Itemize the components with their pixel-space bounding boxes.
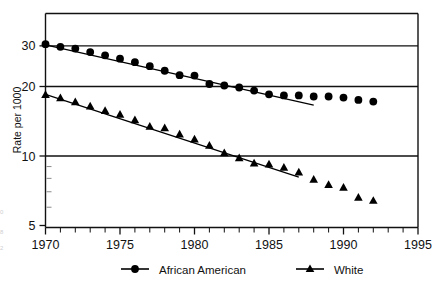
- data-point-1986-18.3: [280, 92, 288, 100]
- data-point-1991-6.6: [354, 193, 363, 201]
- data-point-1972-29.2: [71, 45, 79, 53]
- data-point-1988-18.1: [310, 93, 318, 101]
- x-tick-label-1970: 1970: [32, 238, 60, 252]
- trend-line-series-1: [46, 94, 299, 177]
- data-point-1988-7.9: [309, 175, 318, 183]
- legend-marker-circle-icon: [131, 265, 139, 273]
- x-tick-label-1980: 1980: [181, 238, 209, 252]
- data-point-1970-18.4: [41, 90, 50, 98]
- data-point-1973-16.4: [86, 102, 95, 110]
- data-point-1989-7.5: [324, 180, 333, 188]
- data-point-1992-6.4: [369, 196, 378, 204]
- data-point-1984-19.2: [250, 87, 258, 95]
- x-tick-label-1975: 1975: [106, 238, 134, 252]
- x-tick-label-1995: 1995: [404, 238, 432, 252]
- margin-artifact-3: 2: [0, 244, 14, 252]
- data-point-1987-8.5: [295, 168, 304, 176]
- data-point-1985-9.2: [265, 160, 274, 168]
- data-point-1984-9.3: [250, 159, 259, 167]
- data-point-1970-30.5: [42, 40, 50, 48]
- data-series-group: [41, 40, 377, 204]
- x-tick-label-1990: 1990: [330, 238, 358, 252]
- data-point-1979-12.4: [175, 130, 184, 138]
- data-point-1975-15.1: [116, 110, 125, 118]
- data-point-1975-26.4: [116, 55, 124, 63]
- x-axis-ticks: [46, 228, 419, 235]
- x-tick-label-1985: 1985: [255, 238, 283, 252]
- data-point-1973-28.2: [86, 48, 94, 56]
- legend-label-0: African American: [159, 264, 246, 276]
- data-point-1982-20.2: [220, 82, 228, 90]
- data-point-1992-17.2: [369, 98, 377, 106]
- data-point-1981-20.5: [206, 80, 214, 88]
- data-point-1978-13.2: [160, 124, 169, 132]
- data-point-1987-18.3: [295, 92, 303, 100]
- legend-label-1: White: [334, 264, 363, 276]
- data-point-1978-23.4: [161, 67, 169, 75]
- data-point-1986-8.9: [280, 163, 289, 171]
- data-point-1989-18.1: [325, 93, 333, 101]
- data-point-1976-14.3: [131, 116, 140, 124]
- y-axis-title: Rate per 1000: [11, 87, 23, 154]
- data-point-1983-19.8: [235, 84, 243, 92]
- data-point-1974-27.3: [101, 51, 109, 59]
- data-point-1991-17.5: [355, 96, 363, 104]
- data-point-1979-22.4: [176, 71, 184, 79]
- data-point-1972-17.1: [71, 98, 80, 106]
- data-point-1985-18.5: [265, 90, 273, 98]
- data-point-1971-29.7: [57, 43, 65, 51]
- data-point-1976-25.5: [131, 58, 139, 66]
- series-african-american: [42, 40, 378, 105]
- data-point-1974-15.7: [101, 106, 110, 114]
- data-point-1980-22.3: [191, 72, 199, 80]
- series-white: [41, 90, 377, 204]
- chart-legend: African AmericanWhite: [121, 264, 363, 276]
- trend-lines-group: [46, 45, 314, 177]
- y-tick-label-10: 10: [22, 150, 36, 164]
- data-point-1990-17.9: [340, 94, 348, 102]
- data-point-1981-11.1: [205, 141, 214, 149]
- data-point-1977-24.5: [146, 62, 154, 70]
- line-chart: 197019751980198519901995 5102030 Rate pe…: [0, 0, 439, 289]
- data-point-1971-17.8: [56, 94, 65, 102]
- y-axis-tick-labels: 5102030: [22, 39, 36, 233]
- y-axis-title-text: Rate per 1000: [11, 87, 23, 154]
- data-point-1977-13.4: [146, 122, 155, 130]
- data-point-1990-7.3: [339, 183, 348, 191]
- margin-artifact-1: 0: [0, 208, 14, 216]
- margin-artifact-2: 8: [0, 228, 14, 236]
- figure-container: 0 8 2 197019751980198519901995 5102030 R…: [0, 0, 439, 289]
- data-point-1980-11.8: [190, 135, 199, 143]
- x-axis-tick-labels: 197019751980198519901995: [32, 238, 432, 252]
- y-tick-label-5: 5: [29, 219, 36, 233]
- y-tick-label-30: 30: [22, 39, 36, 53]
- y-tick-label-20: 20: [22, 80, 36, 94]
